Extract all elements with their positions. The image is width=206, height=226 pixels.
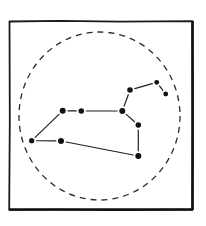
constellation-diagram: [0, 0, 206, 226]
star-B: [58, 138, 64, 144]
star-C: [60, 108, 66, 114]
star-F: [136, 122, 142, 128]
frame: [9, 21, 193, 210]
frame-border: [9, 21, 193, 210]
link-A-C: [35, 114, 59, 137]
link-H-I: [135, 84, 152, 89]
link-B-G: [66, 142, 133, 155]
link-E-H: [124, 95, 128, 106]
star-A: [29, 138, 34, 143]
dashed-boundary-circle: [19, 32, 180, 200]
star-E: [119, 108, 125, 114]
star-H: [127, 87, 133, 93]
star-I: [154, 80, 159, 85]
star-G: [135, 153, 141, 159]
star-D: [79, 108, 85, 114]
link-I-J: [160, 86, 163, 90]
star-J: [163, 92, 168, 97]
link-E-F: [126, 114, 134, 121]
constellation-stars: [29, 80, 168, 159]
constellation-lines: [35, 84, 163, 155]
